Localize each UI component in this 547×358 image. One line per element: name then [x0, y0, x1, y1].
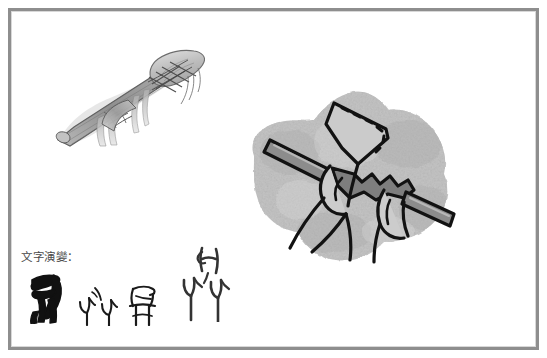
glyph-bronze: 金文	[76, 282, 120, 326]
glyph-seal: 小篆	[124, 282, 162, 326]
evolution-label: 文字演變：	[21, 248, 79, 264]
hafted-stone-axe-pencil-sketch	[48, 32, 218, 147]
hands-gripping-axe-ink-drawing	[238, 82, 474, 272]
glyph-oracle-bone: 甲骨文	[26, 272, 70, 324]
glyph-large-variant: 變體	[178, 246, 232, 322]
illustration-page: 文字演變： 甲骨文 金文	[0, 0, 547, 358]
